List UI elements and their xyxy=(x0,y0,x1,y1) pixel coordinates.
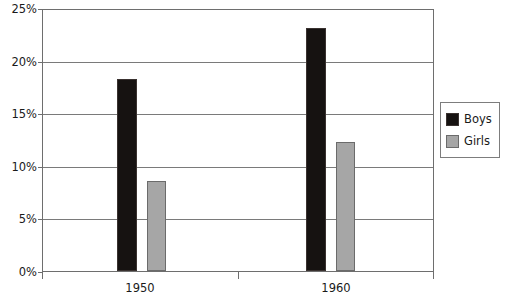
x-tick-mark-right xyxy=(433,272,434,279)
x-tick-mark-left xyxy=(42,272,43,279)
bar-chart: 25% 20% 15% 10% 5% 0% 1950 1960 Boys xyxy=(0,0,506,302)
bar-girls-1950 xyxy=(147,181,166,271)
scan-artifact-strip xyxy=(0,294,506,302)
x-tick-label-1950: 1950 xyxy=(80,281,200,295)
legend-item-girls: Girls xyxy=(446,130,499,152)
chart-legend: Boys Girls xyxy=(440,102,500,158)
bar-girls-1960 xyxy=(336,142,355,272)
y-tick-label-25: 25% xyxy=(1,3,37,15)
gridline-20 xyxy=(43,62,433,63)
y-tick-label-10: 10% xyxy=(1,161,37,173)
gridline-15 xyxy=(43,114,433,115)
y-tick-label-0: 0% xyxy=(1,266,37,278)
legend-item-boys: Boys xyxy=(446,108,499,130)
plot-area xyxy=(42,9,434,272)
y-tick-label-20: 20% xyxy=(1,56,37,68)
bar-boys-1960 xyxy=(306,28,326,271)
y-tick-label-15: 15% xyxy=(1,108,37,120)
y-tick-label-5: 5% xyxy=(1,213,37,225)
y-axis: 25% 20% 15% 10% 5% 0% xyxy=(0,9,37,272)
bar-boys-1950 xyxy=(117,79,137,271)
gridline-10 xyxy=(43,167,433,168)
x-tick-label-1960: 1960 xyxy=(276,281,396,295)
legend-label-boys: Boys xyxy=(464,113,492,125)
legend-swatch-boys-icon xyxy=(446,113,459,126)
x-tick-mark-middle xyxy=(238,272,239,279)
legend-swatch-girls-icon xyxy=(446,135,459,148)
legend-label-girls: Girls xyxy=(464,135,490,147)
gridline-5 xyxy=(43,219,433,220)
